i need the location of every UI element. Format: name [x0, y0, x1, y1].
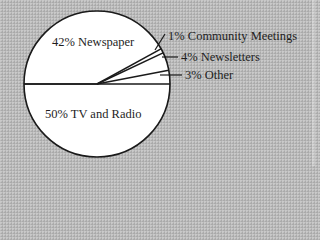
slice-label-other: 3% Other [185, 68, 233, 82]
pie-graphic [0, 0, 315, 166]
image-edge [312, 0, 315, 166]
slice-label-newspaper: 42% Newspaper [52, 35, 134, 49]
slice-label-newsletters: 4% Newsletters [181, 50, 260, 64]
slice-label-community-meetings: 1% Community Meetings [168, 29, 297, 43]
pie-chart: 3% Other4% Newsletters1% Community Meeti… [0, 0, 315, 166]
slice-label-tv-and-radio: 50% TV and Radio [45, 107, 141, 121]
